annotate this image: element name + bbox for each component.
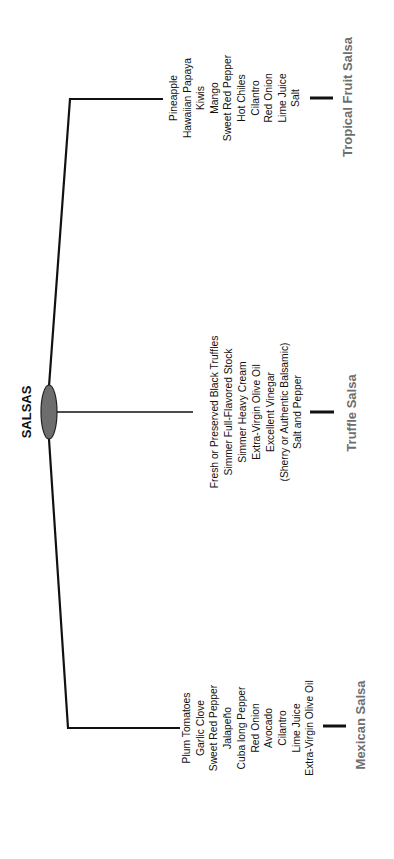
branch-mexican: Plum TomatoesGarlic CloveSweet Red Peppe…	[181, 680, 315, 775]
root-label: SALSAS	[19, 385, 34, 438]
ingredient-item: Salt and Pepper	[292, 375, 303, 449]
ingredient-item: Red Onion	[250, 703, 261, 753]
ingredient-item: Hot Chiles	[236, 74, 247, 122]
connector-tropical	[48, 99, 163, 400]
ingredient-item: Red Onion	[263, 73, 274, 123]
ingredient-item: Simmer Full-Flavored Stock	[223, 348, 234, 476]
ingredient-item: Hawaiian Papaya	[182, 58, 193, 138]
category-label-mexican: Mexican Salsa	[353, 680, 368, 770]
root-node	[41, 385, 57, 439]
ingredient-item: Extra-Virgin Olive Oil	[304, 680, 315, 775]
ingredient-item: Mango	[209, 82, 220, 114]
connector-mexican	[48, 424, 180, 728]
ingredient-item: Cilantro	[277, 710, 288, 746]
ingredient-item: Jalapeño	[222, 707, 233, 749]
branch-truffle: Fresh or Preserved Black TrufflesSimmer …	[209, 336, 303, 489]
ingredient-item: Plum Tomatoes	[181, 693, 192, 764]
ingredient-item: Kiwis	[195, 86, 206, 110]
ingredient-item: Sweet Red Pepper	[222, 54, 233, 141]
ingredient-item: Garlic Clove	[195, 700, 206, 756]
ingredient-item: Simmer Heavy Cream	[237, 361, 248, 462]
ingredient-item: Avocado	[263, 708, 274, 748]
salsa-tree-diagram: SALSAS PineappleHawaiian PapayaKiwisMang…	[0, 0, 394, 859]
ingredient-item: Sweet Red Pepper	[208, 684, 219, 771]
ingredient-item: Cuba long Pepper	[236, 686, 247, 770]
category-label-tropical: Tropical Fruit Salsa	[340, 36, 355, 157]
ingredient-item: Fresh or Preserved Black Truffles	[209, 336, 220, 489]
ingredient-item: Pineapple	[168, 75, 179, 121]
ingredient-item: Excellent Vinegar	[265, 371, 276, 452]
ingredient-item: Lime Juice	[277, 73, 288, 122]
ingredient-item: Extra-Virgin Olive Oil	[251, 364, 262, 459]
ingredient-item: Salt	[290, 89, 301, 107]
branch-tropical: PineappleHawaiian PapayaKiwisMangoSweet …	[168, 54, 301, 141]
category-label-truffle: Truffle Salsa	[344, 374, 359, 452]
ingredient-item: Lime Juice	[291, 703, 302, 752]
ingredient-item: (Sherry or Authentic Balsamic)	[279, 342, 290, 481]
ingredient-item: Cilantro	[250, 80, 261, 116]
